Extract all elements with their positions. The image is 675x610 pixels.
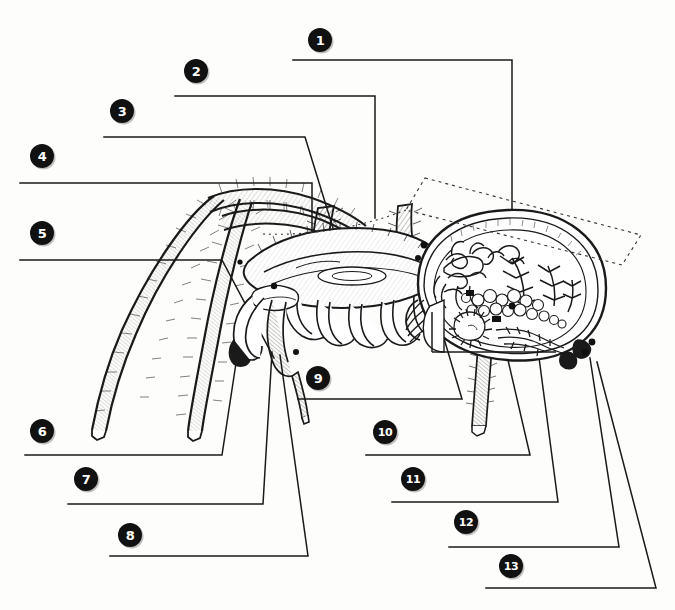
callout-marker-11[interactable]: 11	[401, 467, 425, 491]
worksheet-canvas: 12345678910111213	[0, 0, 675, 610]
callout-marker-5[interactable]: 5	[30, 221, 54, 245]
callout-marker-3[interactable]: 3	[110, 99, 134, 123]
callout-marker-10[interactable]: 10	[373, 420, 397, 444]
callout-marker-6[interactable]: 6	[30, 419, 54, 443]
callout-marker-8[interactable]: 8	[118, 523, 142, 547]
callout-marker-1[interactable]: 1	[308, 28, 332, 52]
callout-marker-12[interactable]: 12	[454, 510, 478, 534]
callout-marker-9[interactable]: 9	[306, 366, 330, 390]
abdomen-cross-section	[406, 210, 606, 369]
callout-marker-7[interactable]: 7	[74, 467, 98, 491]
spider-anatomy-illustration	[0, 0, 675, 610]
callout-marker-2[interactable]: 2	[184, 59, 208, 83]
callout-marker-4[interactable]: 4	[30, 144, 54, 168]
callout-marker-13[interactable]: 13	[499, 554, 523, 578]
